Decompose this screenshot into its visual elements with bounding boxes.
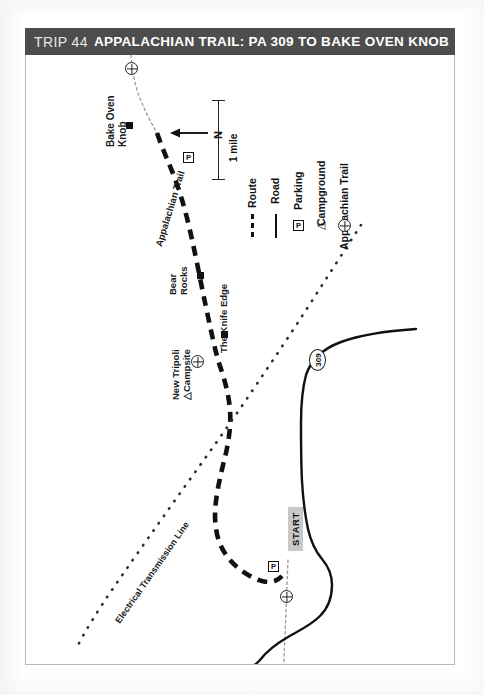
- scale-bar-cap-bottom: [212, 179, 225, 180]
- legend-label-road: Road: [269, 178, 281, 204]
- triangle-icon: △: [314, 222, 327, 230]
- road-309-path: [254, 329, 416, 665]
- trip-number-label: TRIP 44: [34, 34, 88, 50]
- legend-symbol-road: [268, 214, 284, 238]
- legend-symbol-parking: P: [291, 214, 307, 238]
- bear-rocks-marker: [197, 272, 204, 279]
- at-shield-icon: [338, 219, 351, 232]
- label-bake-oven-knob-line1: Bake Oven: [106, 95, 117, 147]
- solid-line-icon: [275, 214, 277, 238]
- page-title: APPALACHIAN TRAIL: PA 309 TO BAKE OVEN K…: [94, 34, 449, 49]
- label-new-tripoli-line2: △Campsite: [182, 349, 192, 400]
- legend-label-route: Route: [246, 178, 258, 208]
- at-spur-south-path: [284, 560, 288, 665]
- trip-title-bar: TRIP 44 APPALACHIAN TRAIL: PA 309 TO BAK…: [25, 28, 455, 55]
- label-bake-oven-knob: Bake Oven: [106, 95, 117, 147]
- label-bake-oven-knob-line2: Knob: [118, 121, 129, 147]
- parking-icon: P: [293, 220, 304, 231]
- dashed-line-icon: [251, 214, 254, 238]
- label-bake-oven-knob-line2-wrap: Knob: [118, 121, 129, 147]
- legend-label-parking: Parking: [292, 171, 304, 210]
- legend-symbol-route: [245, 214, 261, 238]
- label-new-tripoli-line1: New Tripoli: [171, 349, 181, 400]
- scanned-page: TRIP 44 APPALACHIAN TRAIL: PA 309 TO BAK…: [0, 0, 484, 695]
- legend-symbol-campground: △: [314, 214, 330, 238]
- map-canvas: P P 309 START Bake Oven Knob Appalachian…: [25, 55, 455, 665]
- north-arrow-glyph: [170, 129, 208, 138]
- label-bear-rocks-line2: Rocks: [179, 266, 189, 295]
- route-shield-309: 309: [309, 349, 326, 371]
- legend-symbol-appalachian-trail: [337, 214, 353, 238]
- scale-bar-label: 1 mile: [228, 134, 239, 162]
- parking-icon-start: P: [268, 561, 279, 572]
- label-bear-rocks-line1: Bear: [168, 274, 178, 295]
- at-shield-icon-north: [125, 62, 138, 75]
- label-knife-edge: The Knife Edge: [219, 284, 229, 353]
- at-shield-icon-new-tripoli: [191, 355, 204, 368]
- parking-icon-bake-oven: P: [183, 152, 194, 163]
- map-vector-layer: [26, 55, 455, 665]
- scale-bar-line: [218, 100, 219, 180]
- start-badge: START: [288, 507, 303, 551]
- at-shield-icon-start: [280, 590, 293, 603]
- route-shield-number: 309: [313, 353, 322, 366]
